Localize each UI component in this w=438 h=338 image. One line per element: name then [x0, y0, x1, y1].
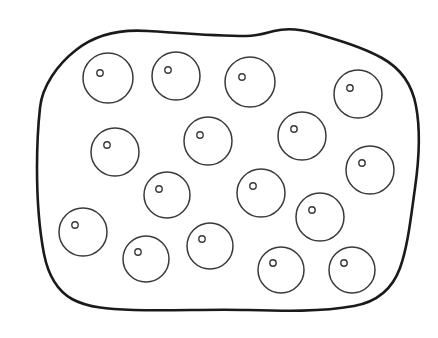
item-circle-outline [278, 112, 326, 160]
item-circle-outline [237, 169, 285, 217]
item-center-dot-icon [359, 160, 365, 166]
circle-item [91, 128, 139, 176]
item-circle-outline [184, 117, 232, 165]
item-circle-outline [187, 223, 233, 269]
item-circle-outline [152, 52, 200, 100]
item-circle-outline [91, 128, 139, 176]
item-center-dot-icon [341, 260, 347, 266]
circle-item [123, 236, 169, 282]
item-center-dot-icon [347, 85, 353, 91]
circle-item [187, 223, 233, 269]
item-circle-outline [329, 247, 375, 293]
item-circle-outline [258, 247, 304, 293]
item-circle-outline [123, 236, 169, 282]
item-circle-outline [346, 146, 394, 194]
circle-item [258, 247, 304, 293]
item-circle-outline [59, 208, 107, 256]
circle-item [278, 112, 326, 160]
item-circle-outline [144, 172, 190, 218]
circle-item [237, 169, 285, 217]
item-center-dot-icon [250, 183, 256, 189]
item-center-dot-icon [97, 70, 103, 76]
circle-item [152, 52, 200, 100]
item-center-dot-icon [135, 249, 141, 255]
item-center-dot-icon [72, 222, 78, 228]
item-circle-outline [296, 193, 344, 241]
item-circle-outline [225, 57, 275, 107]
item-center-dot-icon [156, 186, 162, 192]
item-circle-outline [83, 53, 133, 103]
item-circle-outline [334, 70, 382, 118]
item-center-dot-icon [309, 207, 315, 213]
figure-svg [0, 0, 438, 338]
circle-item [59, 208, 107, 256]
item-center-dot-icon [165, 67, 171, 73]
item-center-dot-icon [199, 236, 205, 242]
item-center-dot-icon [104, 142, 110, 148]
item-center-dot-icon [239, 74, 245, 80]
circle-item [346, 146, 394, 194]
circle-item [184, 117, 232, 165]
circle-item [144, 172, 190, 218]
item-center-dot-icon [197, 132, 203, 138]
drawing-canvas [0, 0, 438, 338]
circle-item [83, 53, 133, 103]
circle-item [296, 193, 344, 241]
circle-item [329, 247, 375, 293]
item-center-dot-icon [270, 260, 276, 266]
circle-item [334, 70, 382, 118]
circle-item [225, 57, 275, 107]
item-center-dot-icon [291, 126, 297, 132]
